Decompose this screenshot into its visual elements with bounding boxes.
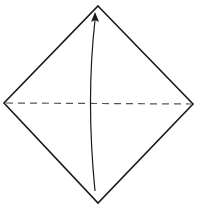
origami-diagram <box>0 0 197 205</box>
paper-square-outline <box>4 6 193 203</box>
diagram-canvas <box>0 0 197 205</box>
